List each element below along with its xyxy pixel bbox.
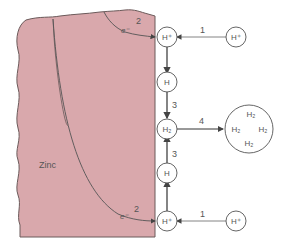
step-3-label-top: 3: [172, 100, 177, 110]
step-4-label: 4: [199, 116, 204, 126]
svg-text:H⁺: H⁺: [231, 217, 241, 226]
electron-label-bottom: e⁻: [120, 212, 129, 221]
hplus-ion-surface-bottom: H⁺: [157, 211, 177, 231]
bubble-h2-right: H₂: [259, 125, 268, 134]
bubble-h2-left: H₂: [232, 125, 241, 134]
step-3-label-bottom: 3: [172, 149, 177, 159]
step-1-label-bottom: 1: [200, 209, 205, 219]
zinc-hydrogen-evolution-diagram: Zinc e⁻ 2 e⁻ 2 3 3 1 1 4 H⁺ H⁺ H H₂ H H⁺…: [0, 0, 281, 251]
zinc-metal-block: [17, 10, 155, 237]
h-atom-top: H: [157, 72, 177, 92]
bubble-h2-bottom: H₂: [245, 139, 254, 148]
svg-text:H⁺: H⁺: [231, 33, 241, 42]
hplus-ion-surface-top: H⁺: [157, 27, 177, 47]
electron-label-top: e⁻: [121, 26, 130, 35]
step-2-label-top: 2: [136, 16, 141, 26]
zinc-label: Zinc: [39, 160, 57, 170]
svg-text:H⁺: H⁺: [162, 33, 172, 42]
h2-molecule-surface: H₂: [157, 119, 177, 139]
bubble-h2-top: H₂: [247, 110, 256, 119]
step-2-label-bottom: 2: [134, 204, 139, 214]
svg-text:H: H: [164, 78, 170, 87]
h-atom-bottom: H: [157, 163, 177, 183]
svg-text:H₂: H₂: [163, 125, 172, 134]
svg-text:H⁺: H⁺: [162, 217, 172, 226]
step-1-label-top: 1: [200, 25, 205, 35]
hplus-ion-solution-bottom: H⁺: [226, 211, 246, 231]
hplus-ion-solution-top: H⁺: [226, 27, 246, 47]
h2-gas-bubble: H₂ H₂ H₂ H₂: [225, 105, 273, 153]
svg-text:H: H: [164, 169, 170, 178]
